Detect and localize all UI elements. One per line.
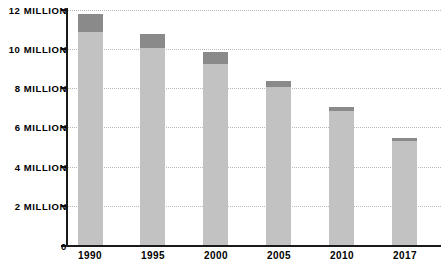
y-axis-label-2: 2 MILLION [5, 201, 67, 212]
x-axis-label-2000: 2000 [186, 250, 246, 261]
gridline-12 [68, 10, 441, 11]
y-axis-label-6: 6 MILLION [5, 122, 67, 133]
bar-1990 [78, 14, 103, 245]
bar-1995-upper-segment [140, 34, 165, 48]
bar-2005-lower-segment [266, 87, 291, 245]
x-axis-label-2005: 2005 [249, 250, 309, 261]
y-axis-label-10: 10 MILLION [5, 44, 67, 55]
gridline-6 [68, 127, 441, 128]
bar-2010-lower-segment [329, 111, 354, 245]
y-axis-label-4: 4 MILLION [5, 162, 67, 173]
bar-chart: 12 MILLION 10 MILLION 8 MILLION 6 MILLIO… [0, 0, 443, 268]
y-axis-line [66, 8, 68, 247]
gridline-8 [68, 88, 441, 89]
x-axis-label-1995: 1995 [123, 250, 183, 261]
bar-2010 [329, 107, 354, 245]
x-axis-line [66, 245, 441, 247]
x-axis-label-2017: 2017 [375, 250, 435, 261]
bar-2017 [392, 138, 417, 245]
bar-1995-lower-segment [140, 48, 165, 245]
y-axis-label-12: 12 MILLION [5, 5, 67, 16]
gridline-2 [68, 206, 441, 207]
x-axis-label-2010: 2010 [312, 250, 372, 261]
y-axis-label-8: 8 MILLION [5, 83, 67, 94]
bar-2017-lower-segment [392, 141, 417, 245]
bar-2005 [266, 81, 291, 245]
gridline-4 [68, 167, 441, 168]
x-axis-label-1990: 1990 [60, 250, 120, 261]
bar-1990-upper-segment [78, 14, 103, 32]
bar-2000 [203, 52, 228, 245]
bar-1995 [140, 34, 165, 245]
bar-2000-upper-segment [203, 52, 228, 64]
gridline-10 [68, 49, 441, 50]
y-axis-label-0: 0 [5, 241, 67, 252]
bar-2000-lower-segment [203, 64, 228, 245]
bar-1990-lower-segment [78, 32, 103, 245]
